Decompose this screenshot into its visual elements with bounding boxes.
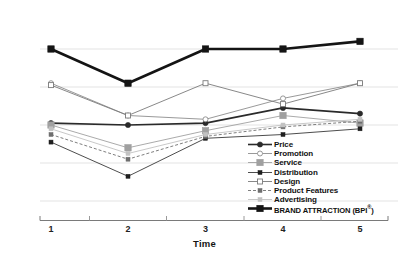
- legend-item-design[interactable]: Design: [247, 177, 407, 186]
- legend-marker-icon: [247, 168, 273, 177]
- data-point: [126, 113, 131, 118]
- legend-marker-icon: [247, 186, 273, 195]
- data-point: [257, 206, 263, 212]
- data-point: [125, 122, 130, 127]
- data-point: [257, 160, 263, 166]
- data-point: [126, 174, 130, 178]
- legend-label: Distribution: [273, 168, 318, 177]
- data-point: [358, 81, 363, 86]
- legend-item-promotion[interactable]: Promotion: [247, 149, 407, 158]
- data-point: [280, 46, 286, 52]
- plot-area: [0, 0, 409, 261]
- series-7: [48, 38, 363, 86]
- data-point: [258, 151, 263, 156]
- data-point: [358, 127, 362, 131]
- series-4: [49, 81, 363, 118]
- data-point: [357, 38, 363, 44]
- legend-item-product-features[interactable]: Product Features: [247, 186, 407, 195]
- data-point: [280, 112, 286, 118]
- series-line: [51, 83, 360, 119]
- data-point: [48, 46, 54, 52]
- legend-label: Service: [273, 158, 302, 167]
- data-point: [258, 179, 263, 184]
- chart-legend: PricePromotionServiceDistributionDesignP…: [247, 140, 407, 214]
- data-point: [203, 117, 208, 122]
- x-tick-label-4: 4: [271, 224, 295, 234]
- legend-label: BRAND ATTRACTION (BPI®): [273, 203, 374, 215]
- legend-item-price[interactable]: Price: [247, 140, 407, 149]
- legend-item-service[interactable]: Service: [247, 158, 407, 167]
- legend-label: Promotion: [273, 149, 313, 158]
- data-point: [49, 83, 54, 88]
- legend-marker-icon: [247, 140, 273, 149]
- legend-label: Product Features: [273, 186, 338, 195]
- data-point: [357, 111, 362, 116]
- legend-marker-icon: [247, 177, 273, 186]
- data-point: [281, 133, 285, 137]
- line-chart: 12345 Time PricePromotionServiceDistribu…: [0, 0, 409, 261]
- x-tick-label-1: 1: [39, 224, 63, 234]
- legend-item-brand-attraction-bpi[interactable]: BRAND ATTRACTION (BPI®): [247, 204, 407, 213]
- data-point: [204, 133, 208, 137]
- data-point: [258, 198, 262, 202]
- legend-marker-icon: [247, 149, 273, 158]
- data-point: [202, 46, 208, 52]
- data-point: [281, 123, 285, 127]
- data-point: [257, 142, 262, 147]
- data-point: [258, 170, 262, 174]
- data-point: [49, 127, 53, 131]
- legend-label: Price: [273, 140, 293, 149]
- legend-marker-icon: [247, 195, 273, 204]
- x-axis-title: Time: [0, 238, 409, 249]
- data-point: [125, 80, 131, 86]
- data-point: [203, 81, 208, 86]
- data-point: [125, 145, 131, 151]
- data-point: [258, 189, 262, 193]
- legend-label: Design: [273, 177, 300, 186]
- data-point: [126, 157, 130, 161]
- legend-marker-icon: [247, 204, 273, 213]
- data-point: [126, 152, 130, 156]
- legend-marker-icon: [247, 158, 273, 167]
- data-point: [281, 96, 286, 101]
- x-axis: [40, 216, 388, 221]
- data-point: [49, 133, 53, 137]
- legend-item-distribution[interactable]: Distribution: [247, 168, 407, 177]
- x-tick-label-3: 3: [194, 224, 218, 234]
- data-point: [49, 140, 53, 144]
- data-point: [281, 102, 286, 107]
- x-tick-label-5: 5: [348, 224, 372, 234]
- x-tick-label-2: 2: [116, 224, 140, 234]
- data-point: [358, 117, 362, 121]
